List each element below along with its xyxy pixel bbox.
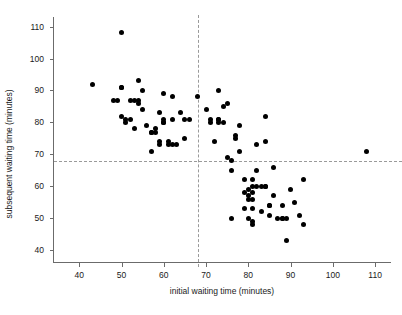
y-tick-mark xyxy=(50,218,54,219)
data-point xyxy=(271,165,276,170)
data-point xyxy=(229,158,234,163)
data-point xyxy=(174,142,179,147)
data-point xyxy=(149,149,154,154)
data-point xyxy=(271,193,276,198)
x-axis-title: initial waiting time (minutes) xyxy=(53,286,391,296)
data-point xyxy=(119,30,124,35)
x-tick-label: 100 xyxy=(326,270,340,280)
y-tick-label: 80 xyxy=(35,117,44,127)
y-tick-mark xyxy=(50,154,54,155)
data-point xyxy=(208,117,213,122)
data-point xyxy=(182,136,187,141)
data-point xyxy=(187,117,192,122)
data-point xyxy=(216,88,221,93)
data-point xyxy=(254,142,259,147)
data-point xyxy=(225,101,230,106)
x-tick-mark xyxy=(248,263,249,267)
x-tick-mark xyxy=(122,263,123,267)
data-point xyxy=(284,238,289,243)
data-point xyxy=(136,98,141,103)
x-tick-mark xyxy=(206,263,207,267)
data-point xyxy=(288,187,293,192)
y-tick-mark xyxy=(50,122,54,123)
data-point xyxy=(212,139,217,144)
data-point xyxy=(161,91,166,96)
data-point xyxy=(263,184,268,189)
y-tick-mark xyxy=(50,90,54,91)
data-point xyxy=(136,78,141,83)
y-tick-label: 50 xyxy=(35,213,44,223)
data-point xyxy=(119,85,124,90)
x-tick-mark xyxy=(79,263,80,267)
data-point xyxy=(221,120,226,125)
x-tick-label: 110 xyxy=(368,270,382,280)
y-tick-label: 60 xyxy=(35,181,44,191)
data-point xyxy=(250,177,255,182)
y-tick-mark xyxy=(50,27,54,28)
data-point xyxy=(140,88,145,93)
x-tick-label: 60 xyxy=(159,270,168,280)
x-tick-label: 80 xyxy=(244,270,253,280)
data-point xyxy=(237,149,242,154)
x-tick-label: 90 xyxy=(286,270,295,280)
data-point xyxy=(170,94,175,99)
y-tick-mark xyxy=(50,59,54,60)
data-point xyxy=(237,123,242,128)
data-point xyxy=(250,206,255,211)
data-point xyxy=(132,126,137,131)
data-point xyxy=(263,114,268,119)
data-point xyxy=(242,177,247,182)
y-axis-title: subsequent waiting time (minutes) xyxy=(2,31,16,277)
data-point xyxy=(242,206,247,211)
data-point xyxy=(254,168,259,173)
data-point xyxy=(250,222,255,227)
data-point xyxy=(195,94,200,99)
data-point xyxy=(284,216,289,221)
y-tick-label: 100 xyxy=(30,54,44,64)
data-point xyxy=(364,149,369,154)
data-point xyxy=(204,107,209,112)
data-point xyxy=(267,213,272,218)
y-tick-label: 110 xyxy=(30,22,44,32)
x-tick-label: 70 xyxy=(201,270,210,280)
data-point xyxy=(301,222,306,227)
data-point xyxy=(267,203,272,208)
x-tick-label: 40 xyxy=(75,270,84,280)
data-point xyxy=(233,136,238,141)
data-point xyxy=(229,216,234,221)
y-tick-label: 40 xyxy=(35,245,44,255)
y-tick-label: 70 xyxy=(35,149,44,159)
data-point xyxy=(250,197,255,202)
data-point xyxy=(157,142,162,147)
data-point xyxy=(259,209,264,214)
data-point xyxy=(250,190,255,195)
y-tick-mark xyxy=(50,250,54,251)
data-point xyxy=(115,98,120,103)
data-point xyxy=(280,203,285,208)
data-point xyxy=(140,107,145,112)
x-tick-mark xyxy=(291,263,292,267)
y-tick-label: 90 xyxy=(35,85,44,95)
y-tick-mark xyxy=(50,186,54,187)
data-point xyxy=(178,110,183,115)
data-point xyxy=(263,139,268,144)
data-points-layer xyxy=(54,17,391,262)
plot-area: 405060708090100110405060708090100110 xyxy=(53,17,391,263)
data-point xyxy=(292,200,297,205)
x-tick-mark xyxy=(375,263,376,267)
data-point xyxy=(157,110,162,115)
data-point xyxy=(119,114,124,119)
data-point xyxy=(128,117,133,122)
data-point xyxy=(170,117,175,122)
x-tick-mark xyxy=(164,263,165,267)
data-point xyxy=(90,82,95,87)
data-point xyxy=(144,123,149,128)
data-point xyxy=(229,168,234,173)
x-tick-label: 50 xyxy=(117,270,126,280)
data-point xyxy=(301,177,306,182)
x-tick-mark xyxy=(333,263,334,267)
data-point xyxy=(297,213,302,218)
